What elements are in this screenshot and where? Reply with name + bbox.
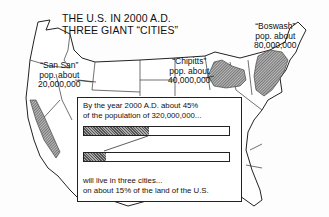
inset-text-4: on about 15% of the land of the U.S. [83,186,209,196]
map-diagram: THE U.S. IN 2000 A.D. THREE GIANT “CITIE… [0,0,329,217]
land-bar-fill [84,153,106,161]
land-bar [83,152,230,162]
inset-text-3: will live in three cities... [83,176,162,186]
city-label-san-san: “San San” pop. about 20,000,000 [38,61,81,90]
city-label-chipitts: “Chipitts” pop. about 40,000,000 [168,57,211,86]
map-title: THE U.S. IN 2000 A.D. THREE GIANT “CITIE… [62,12,178,36]
title-line-2: THREE GIANT “CITIES” [62,24,178,36]
inset-chart-box: By the year 2000 A.D. about 45% of the p… [77,97,242,202]
city-pop-value: 80,000,000 [254,41,297,51]
city-pop-value: 40,000,000 [168,76,211,86]
city-label-boswash: “Boswash” pop. about 80,000,000 [254,22,297,51]
title-line-1: THE U.S. IN 2000 A.D. [62,12,178,24]
city-pop-value: 20,000,000 [38,80,81,90]
